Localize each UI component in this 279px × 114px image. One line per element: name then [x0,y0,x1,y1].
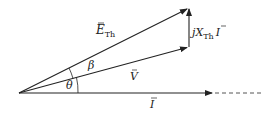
jx-th-i-label: jXThI [189,26,221,41]
v-phasor [19,48,187,94]
beta-label: β [87,59,94,72]
phasor-diagram-svg: ETh β V θ I jXThI [0,0,279,114]
phasor-diagram: ETh β V θ I jXThI [0,0,279,114]
e-th-phasor [19,9,187,93]
theta-label: θ [66,79,73,92]
v-label: V [130,70,139,83]
e-th-label: ETh [95,23,115,39]
theta-arc [77,78,79,93]
beta-arc [69,68,73,79]
i-label: I [149,98,155,111]
